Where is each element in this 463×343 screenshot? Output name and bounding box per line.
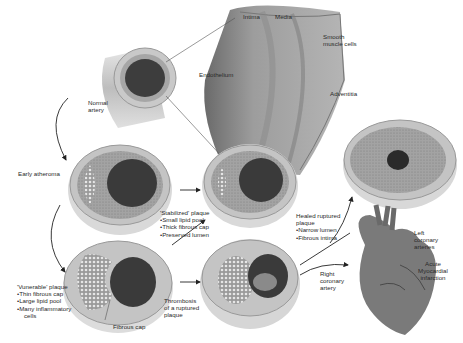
vulnerable-plaque-illustration (63, 241, 173, 333)
arterial-wall-section (204, 5, 345, 175)
label-fibrous-cap: Fibrous cap (113, 323, 145, 330)
label-smooth-muscle-cells: Smooth muscle cells (323, 33, 357, 47)
label-healed-plaque: Healed ruptured plaque Narrow lumen Fibr… (296, 212, 340, 241)
label-vulnerable-plaque: 'Vunerable' plaque Thin fibrous cap Larg… (17, 283, 71, 319)
healed-plaque-illustration (343, 120, 457, 209)
label-endothelium: Endothelium (199, 71, 233, 78)
label-intima: Intima (243, 13, 260, 20)
label-right-coronary-artery: Right coronary artery (320, 270, 344, 292)
ruptured-plaque-thrombosis-illustration (200, 239, 300, 329)
label-normal-artery: Normal artery (88, 99, 108, 113)
label-early-atheroma: Early atheroma (18, 170, 60, 177)
label-stabilized-plaque: 'Stabilized' plaque Small lipid pool Thi… (160, 209, 210, 238)
label-left-coronary-arteries: Left coronary arteries (414, 229, 438, 251)
label-thrombosis: Thrombosis of a ruptured plaque (164, 297, 199, 319)
label-media: Media (275, 13, 292, 20)
label-acute-mi: Acute Myocardial infarction (418, 260, 448, 282)
label-adventitia: Adventitia (330, 90, 357, 97)
stabilized-plaque-illustration (202, 144, 298, 228)
early-atheroma-illustration (68, 145, 172, 235)
